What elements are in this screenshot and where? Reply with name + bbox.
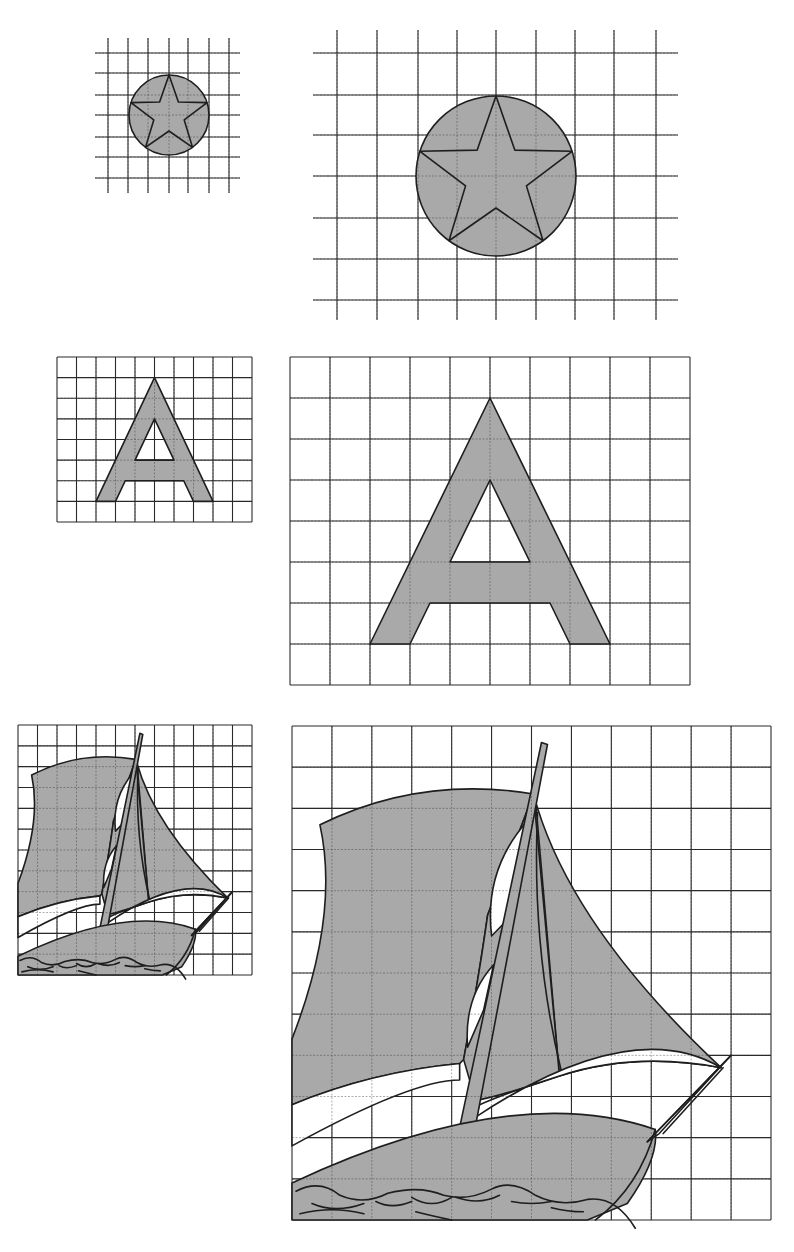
sailboat-small-grid	[18, 725, 252, 975]
star-in-circle-large-grid	[313, 30, 678, 320]
hull	[18, 921, 196, 975]
jib-sail	[136, 759, 228, 902]
jib-sail	[534, 794, 722, 1076]
sailboat-large-grid	[292, 726, 771, 1220]
sailboat	[292, 742, 731, 1228]
hull	[292, 1113, 656, 1220]
letter-a-small-grid	[57, 357, 252, 522]
letter-a-large-grid	[290, 357, 690, 685]
star-in-circle-small-grid	[90, 38, 240, 193]
sailboat	[18, 733, 233, 979]
